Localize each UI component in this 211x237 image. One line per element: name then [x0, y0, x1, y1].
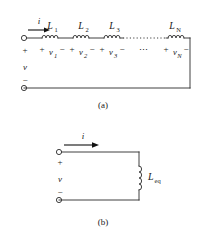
caption-a: (a) — [98, 100, 108, 110]
voltage-label-v1-base: v — [49, 47, 53, 57]
inductor-label-LN-sub: N — [176, 26, 181, 33]
plus-v1: + — [39, 44, 44, 54]
port-minus-b: − — [57, 187, 62, 197]
current-arrow-b — [64, 142, 99, 148]
inductor-label-Leq-sub: eq — [155, 177, 162, 184]
minus-v3: − — [119, 44, 124, 54]
terminal-top-a — [21, 35, 26, 40]
minus-vN: − — [183, 44, 188, 54]
element-voltage-v1: + v 1 − — [39, 44, 64, 59]
inductor-label-L3-sub: 3 — [116, 26, 119, 33]
voltage-label-vN-sub: N — [176, 52, 182, 59]
port-minus-a: − — [22, 75, 27, 85]
inductor-label-Leq-base: L — [147, 171, 154, 182]
element-voltage-v2: + v 2 − — [69, 44, 94, 59]
inductor-L1 — [42, 35, 58, 38]
terminal-top-b — [56, 149, 61, 154]
port-voltage-a: v — [23, 62, 27, 72]
voltage-label-v2-sub: 2 — [84, 52, 88, 59]
voltage-label-v2-base: v — [79, 47, 83, 57]
element-voltage-vN: + v N − — [163, 44, 188, 59]
plus-v3: + — [99, 44, 104, 54]
caption-b: (b) — [98, 217, 109, 227]
port-voltage-b: v — [58, 174, 62, 184]
circuit-figure: i L 1 L 2 L 3 L N + v − — [0, 0, 211, 237]
inductor-label-L1: L 1 — [46, 20, 57, 33]
inductor-label-L3-base: L — [108, 20, 115, 31]
inductor-label-Leq: L eq — [147, 171, 161, 184]
inductor-label-L1-sub: 1 — [54, 26, 57, 33]
plus-v2: + — [69, 44, 74, 54]
voltage-ellipsis: ⋯ — [139, 45, 149, 55]
minus-v1: − — [59, 44, 64, 54]
inductor-label-L1-base: L — [46, 20, 53, 31]
current-label-b: i — [82, 131, 85, 141]
voltage-label-v3-sub: 3 — [113, 52, 118, 59]
port-plus-b: + — [57, 157, 62, 167]
inductor-label-LN: L N — [168, 20, 181, 33]
inductor-label-LN-base: L — [168, 20, 175, 31]
inductor-LN — [168, 35, 184, 38]
inductor-L2 — [73, 35, 89, 38]
inductor-L3 — [104, 35, 120, 38]
voltage-label-v3-base: v — [109, 47, 113, 57]
current-label-a: i — [38, 16, 41, 26]
figure-root: i L 1 L 2 L 3 L N + v − — [0, 0, 211, 237]
inductor-label-L2-sub: 2 — [85, 26, 88, 33]
inductor-Leq — [139, 166, 142, 190]
element-voltage-v3: + v 3 − — [99, 44, 124, 59]
inductor-label-L3: L 3 — [108, 20, 119, 33]
inductor-label-L2: L 2 — [77, 20, 88, 33]
port-plus-a: + — [22, 45, 27, 55]
plus-vN: + — [163, 44, 168, 54]
subfigure-a: i L 1 L 2 L 3 L N + v − — [21, 16, 190, 110]
minus-v2: − — [89, 44, 94, 54]
inductor-label-L2-base: L — [77, 20, 84, 31]
voltage-label-v1-sub: 1 — [54, 52, 57, 59]
subfigure-b: L eq i + v − (b) — [56, 131, 161, 227]
